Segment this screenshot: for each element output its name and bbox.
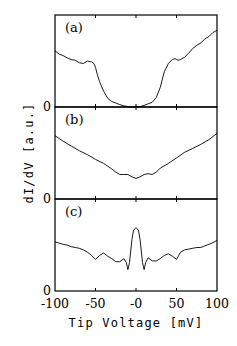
panel-b: (b)0 <box>43 107 217 206</box>
dIdV-curve <box>55 133 217 178</box>
x-tick-label: 50 <box>169 296 185 311</box>
panel-a: (a)0 <box>43 15 217 114</box>
zero-label: 0 <box>43 191 51 206</box>
panel-label: (a) <box>65 20 83 35</box>
panel-label: (b) <box>65 112 83 127</box>
stacked-line-chart: (a)0(b)0(c)0 -100-50-050100 dI/dV [a.u.]… <box>0 0 237 346</box>
dIdV-curve <box>55 228 217 270</box>
y-axis-label: dI/dV [a.u.] <box>22 102 36 203</box>
dIdV-curve <box>55 30 217 107</box>
x-tick-label: -100 <box>41 296 69 311</box>
x-tick-label: -50 <box>85 296 105 311</box>
zero-label: 0 <box>43 99 51 114</box>
x-tick-label: 100 <box>205 296 229 311</box>
x-tick-label: -0 <box>130 296 142 311</box>
panel-c: (c)0 <box>43 199 217 298</box>
panel-label: (c) <box>65 204 82 219</box>
x-axis-label: Tip Voltage [mV] <box>69 316 204 330</box>
